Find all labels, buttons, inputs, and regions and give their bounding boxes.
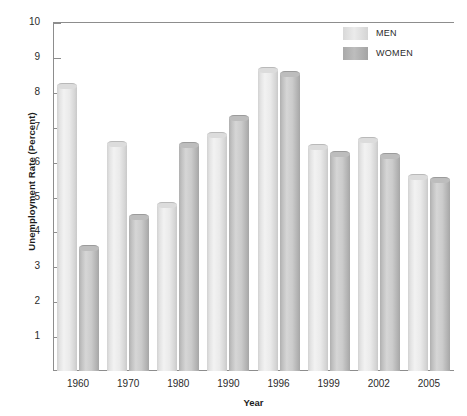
bar-cap <box>57 83 77 89</box>
bar-women-2005[interactable] <box>430 177 450 371</box>
bar-body <box>229 118 249 372</box>
x-tick-label-2005: 2005 <box>399 378 459 389</box>
bar-cap <box>179 142 199 148</box>
bar-women-1999[interactable] <box>330 151 350 371</box>
chart-legend: MEN WOMEN <box>343 25 453 65</box>
legend-label-women: WOMEN <box>376 48 413 58</box>
bar-body <box>207 135 227 371</box>
bar-men-1970[interactable] <box>107 141 127 371</box>
bar-body <box>358 140 378 371</box>
bar-men-1980[interactable] <box>157 202 177 371</box>
bar-cap <box>430 177 450 183</box>
bar-cap <box>308 144 328 150</box>
unemployment-rate-bar-chart: Unemployment Rate (Percent) 10987654321 … <box>0 0 467 416</box>
bar-cap <box>207 132 227 138</box>
legend-swatch-women-icon <box>343 47 368 60</box>
bar-cap <box>408 174 428 180</box>
bar-cap <box>129 214 149 220</box>
y-tick-label: 7 <box>10 121 40 132</box>
bar-cap <box>107 141 127 147</box>
y-tick-label: 4 <box>10 225 40 236</box>
bar-cap <box>280 71 300 77</box>
y-tick-label: 2 <box>10 295 40 306</box>
bar-men-1996[interactable] <box>258 67 278 371</box>
bar-body <box>157 205 177 371</box>
bar-body <box>380 156 400 371</box>
bar-body <box>258 70 278 371</box>
bar-women-1980[interactable] <box>179 142 199 371</box>
y-tick-label: 6 <box>10 156 40 167</box>
bar-body <box>308 147 328 371</box>
y-tick-label: 1 <box>10 330 40 341</box>
y-tick-label: 10 <box>10 16 40 27</box>
y-tick-mark <box>54 23 61 24</box>
bar-women-1996[interactable] <box>280 71 300 371</box>
bar-cap <box>258 67 278 73</box>
bar-men-2005[interactable] <box>408 174 428 371</box>
bar-body <box>79 248 99 371</box>
bar-men-1999[interactable] <box>308 144 328 371</box>
bar-cap <box>358 137 378 143</box>
legend-label-men: MEN <box>376 28 397 38</box>
bar-body <box>129 217 149 371</box>
bar-body <box>179 145 199 371</box>
bar-body <box>430 180 450 371</box>
bar-cap <box>380 153 400 159</box>
bar-body <box>57 86 77 371</box>
bar-men-1990[interactable] <box>207 132 227 371</box>
y-tick-label: 9 <box>10 51 40 62</box>
bar-women-1990[interactable] <box>229 115 249 372</box>
bar-body <box>330 154 350 371</box>
bar-cap <box>79 245 99 251</box>
bar-men-1960[interactable] <box>57 83 77 371</box>
bar-women-1960[interactable] <box>79 245 99 371</box>
y-tick-mark <box>54 58 61 59</box>
bar-cap <box>229 115 249 121</box>
bar-cap <box>330 151 350 157</box>
legend-swatch-men-icon <box>343 27 368 40</box>
bar-cap <box>157 202 177 208</box>
bar-body <box>280 74 300 371</box>
bar-men-2002[interactable] <box>358 137 378 371</box>
y-tick-label: 5 <box>10 191 40 202</box>
bar-body <box>107 144 127 371</box>
x-axis-title: Year <box>53 397 454 408</box>
bar-women-1970[interactable] <box>129 214 149 371</box>
bar-body <box>408 177 428 371</box>
bar-women-2002[interactable] <box>380 153 400 371</box>
y-tick-label: 8 <box>10 86 40 97</box>
legend-item-women[interactable]: WOMEN <box>343 45 453 61</box>
y-tick-label: 3 <box>10 260 40 271</box>
legend-item-men[interactable]: MEN <box>343 25 453 41</box>
